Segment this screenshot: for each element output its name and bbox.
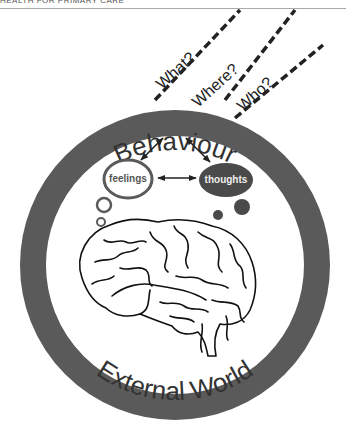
thoughts-label: thoughts xyxy=(205,174,248,185)
brain-icon xyxy=(80,219,256,356)
outer-ring xyxy=(33,123,317,407)
behaviour-diagram: What? Where? Who? Behaviour External Wor… xyxy=(0,0,346,436)
question-what: What? xyxy=(153,49,199,93)
feelings-label: feelings xyxy=(109,173,147,184)
thoughts-bubble: thoughts xyxy=(199,163,253,220)
feelings-bubble: feelings xyxy=(97,160,152,226)
